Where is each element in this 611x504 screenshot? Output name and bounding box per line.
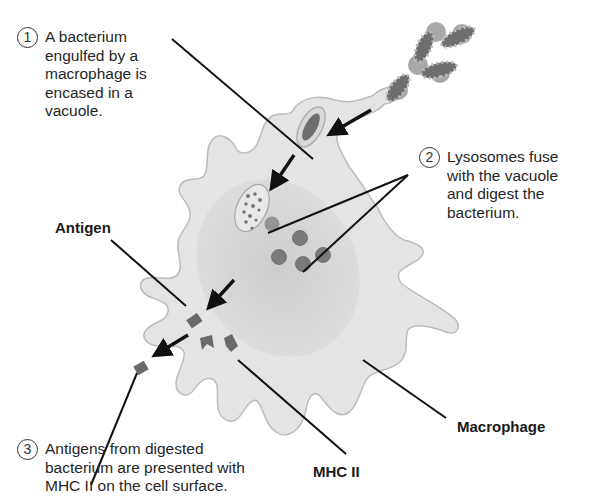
step-2-callout: 2 Lysosomes fuse with the vacuole and di… (419, 148, 558, 222)
step-3-text: Antigens from digested bacterium are pre… (45, 440, 245, 496)
bacteria-cluster (383, 22, 478, 105)
step-1-text: A bacterium engulfed by a macrophage is … (45, 28, 147, 121)
step-1-number: 1 (17, 27, 38, 48)
step-3-callout: 3 Antigens from digested bacterium are p… (17, 440, 245, 496)
antigen-label: Antigen (55, 219, 111, 238)
mhc-ii-label: MHC II (313, 463, 360, 482)
leader-macrophage (363, 360, 446, 418)
diagram-canvas: 1 A bacterium engulfed by a macrophage i… (0, 0, 611, 504)
step-2-text: Lysosomes fuse with the vacuole and dige… (447, 148, 558, 222)
step-1-callout: 1 A bacterium engulfed by a macrophage i… (17, 28, 147, 121)
macrophage-label: Macrophage (457, 418, 545, 437)
leader-step1 (172, 39, 313, 159)
step-2-number: 2 (419, 147, 440, 168)
step-3-number: 3 (17, 439, 38, 460)
antigen-mhc-surface (133, 361, 148, 376)
